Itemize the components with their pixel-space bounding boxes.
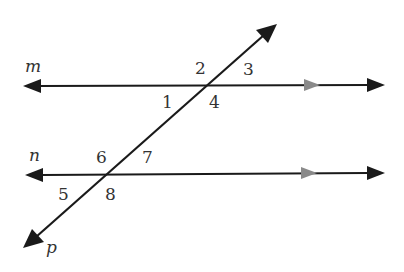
line-m xyxy=(23,78,385,93)
angle-label-1: 1 xyxy=(162,92,173,112)
line-p xyxy=(23,24,277,248)
label-line-n: n xyxy=(29,145,40,165)
angle-label-7: 7 xyxy=(142,147,153,167)
angle-label-2: 2 xyxy=(195,58,206,78)
diagram-canvas: m n p 1 2 3 4 5 6 7 8 xyxy=(0,0,404,272)
arrowhead-left-icon xyxy=(23,79,41,93)
angle-label-3: 3 xyxy=(243,59,254,79)
parallel-marker-icon xyxy=(301,167,317,179)
label-line-p: p xyxy=(46,237,57,257)
parallel-marker-icon xyxy=(304,79,320,91)
arrowhead-left-icon xyxy=(25,168,43,182)
line-n xyxy=(25,166,385,182)
angle-label-6: 6 xyxy=(96,147,107,167)
arrowhead-right-icon xyxy=(367,78,385,92)
angle-label-5: 5 xyxy=(58,184,69,204)
angle-label-8: 8 xyxy=(105,184,116,204)
arrowhead-right-icon xyxy=(367,166,385,180)
label-line-m: m xyxy=(25,56,41,76)
angle-label-4: 4 xyxy=(209,92,220,112)
